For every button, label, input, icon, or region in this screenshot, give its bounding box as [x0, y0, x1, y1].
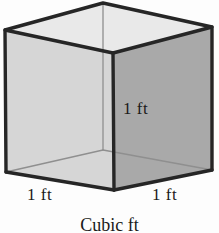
- figure-caption: Cubic ft: [0, 216, 219, 233]
- right-width-dimension-label: 1 ft: [152, 186, 177, 203]
- cube-left-face: [5, 30, 114, 190]
- left-width-dimension-label: 1 ft: [27, 186, 52, 203]
- height-dimension-label: 1 ft: [123, 100, 148, 117]
- cube-figure: 1 ft 1 ft 1 ft Cubic ft: [0, 0, 219, 233]
